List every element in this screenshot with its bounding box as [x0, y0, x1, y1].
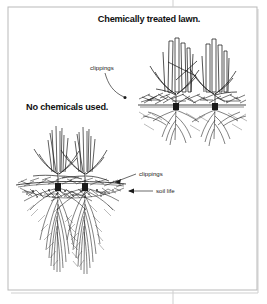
clippings-top-leader-dot [124, 96, 127, 99]
figure-frame: Chemically treated lawn. [0, 0, 267, 304]
treated-crown-b [212, 103, 218, 110]
figure-background [0, 0, 267, 304]
treated-crown-a [173, 103, 179, 110]
clippings-top-label: clippings [90, 64, 114, 71]
untreated-crown-a [55, 183, 61, 191]
soil-life-label: soil life [156, 187, 175, 194]
untreated-crown-b [82, 183, 88, 191]
treated-lawn-title: Chemically treated lawn. [98, 14, 200, 24]
lawn-comparison-illustration: Chemically treated lawn. [0, 0, 267, 304]
untreated-lawn-title: No chemicals used. [26, 102, 108, 112]
clippings-bottom-label: clippings [139, 170, 163, 177]
